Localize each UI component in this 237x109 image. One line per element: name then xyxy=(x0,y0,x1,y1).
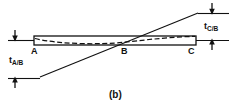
dimension-label-t-c-over-b: tC/B xyxy=(204,22,218,31)
dimension-label-t-a-over-b: tA/B xyxy=(9,56,23,65)
point-label-b: B xyxy=(121,47,128,56)
beam-deflection-figure: A B C tA/B tC/B (b) xyxy=(0,0,237,109)
t-c-over-b-subscript: C/B xyxy=(207,25,218,32)
point-label-c: C xyxy=(188,47,195,56)
deflection-curve xyxy=(35,36,195,43)
t-a-over-b-subscript: A/B xyxy=(12,59,23,66)
figure-caption: (b) xyxy=(109,90,122,100)
left-dimension-upper-arrow-icon xyxy=(12,30,18,42)
point-label-a: A xyxy=(31,47,38,56)
